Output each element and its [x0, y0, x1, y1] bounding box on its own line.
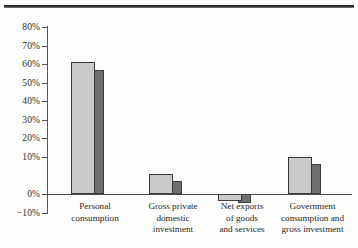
bar-series1-category0	[71, 62, 95, 194]
x-axis-category-label-0: Personal consumption	[57, 201, 133, 224]
bar-series1-category2	[218, 194, 242, 201]
y-tick-mark	[42, 157, 47, 158]
y-tick-mark	[42, 83, 47, 84]
chart-figure: 80% 70% 60% 50% 40% 30% 20% 10% 0% −10% …	[0, 0, 358, 248]
x-axis-category-label-1: Gross private domestic investment	[133, 201, 213, 236]
category-line: Gross private	[133, 201, 213, 213]
y-axis-label-neg10: −10%	[0, 208, 40, 218]
bar-series1-category1	[149, 174, 173, 194]
y-tick-mark	[42, 64, 47, 65]
y-tick-mark	[42, 27, 47, 28]
category-line: Government	[267, 201, 358, 213]
y-axis-label-70: 70%	[0, 41, 40, 51]
category-line: Personal	[57, 201, 133, 213]
y-axis-line	[47, 26, 48, 214]
y-tick-mark	[42, 46, 47, 47]
bar-series1-category3	[288, 157, 312, 194]
bar-chart-plot-area: 80% 70% 60% 50% 40% 30% 20% 10% 0% −10% …	[0, 0, 358, 248]
y-axis-label-10: 10%	[0, 152, 40, 162]
y-axis-label-60: 60%	[0, 59, 40, 69]
y-axis-label-40: 40%	[0, 96, 40, 106]
y-tick-mark	[42, 120, 47, 121]
y-tick-mark	[42, 138, 47, 139]
y-axis-label-80: 80%	[0, 22, 40, 32]
x-axis-category-label-3: Government consumption and gross investm…	[267, 201, 358, 236]
y-axis-label-0: 0%	[0, 189, 40, 199]
y-axis-label-30: 30%	[0, 115, 40, 125]
y-axis-label-20: 20%	[0, 133, 40, 143]
y-tick-mark	[42, 101, 47, 102]
category-line: consumption	[57, 213, 133, 225]
category-line: gross investment	[267, 224, 358, 236]
zero-baseline	[47, 194, 352, 195]
category-line: investment	[133, 224, 213, 236]
y-tick-mark	[42, 213, 47, 214]
category-line: consumption and	[267, 213, 358, 225]
y-axis-label-50: 50%	[0, 78, 40, 88]
y-tick-mark	[42, 194, 47, 195]
category-line: domestic	[133, 213, 213, 225]
